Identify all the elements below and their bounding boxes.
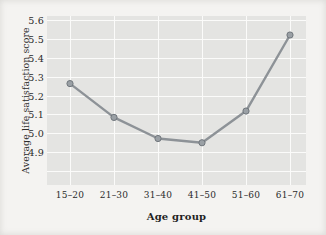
chart-figure: Average life satisfaction score 5.6 5.5 …: [0, 0, 326, 235]
data-point-marker: [243, 108, 249, 114]
x-tick-label: 21–30: [100, 190, 128, 200]
x-tick-label: 31–40: [144, 190, 172, 200]
data-point-marker: [287, 32, 293, 38]
data-point-marker: [199, 140, 205, 146]
x-tick-label: 41–50: [188, 190, 216, 200]
y-tick-label: 5.3: [4, 72, 44, 83]
y-tick-label: 5.2: [4, 91, 44, 102]
y-tick-label: 5.0: [4, 128, 44, 139]
y-tick-label: 5.4: [4, 53, 44, 64]
data-point-marker: [67, 81, 73, 87]
y-tick-label: 5.5: [4, 34, 44, 45]
data-point-marker: [155, 135, 161, 141]
series-polyline: [70, 35, 290, 143]
y-tick-label: 4.9: [4, 147, 44, 158]
y-tick-label: 5.6: [4, 15, 44, 26]
plot-area: [47, 16, 306, 185]
x-tick-label: 51–60: [232, 190, 260, 200]
data-point-marker: [111, 114, 117, 120]
x-axis-title: Age group: [47, 211, 306, 222]
x-tick-label: 15–20: [56, 190, 84, 200]
y-tick-label: 5.1: [4, 109, 44, 120]
x-tick-label: 61–70: [276, 190, 304, 200]
data-series-line: [47, 16, 306, 185]
